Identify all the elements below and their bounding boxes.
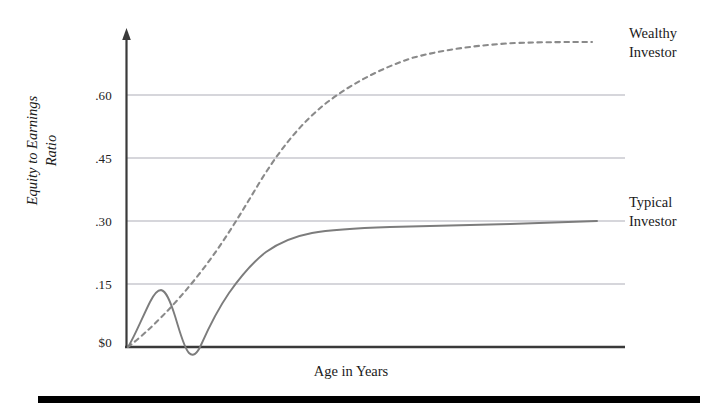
y-axis <box>122 28 131 347</box>
y-axis-title-line1: Equity to Earnings <box>23 81 42 221</box>
y-tick-label-030: .30 <box>68 214 112 230</box>
bottom-divider-rule <box>38 396 700 403</box>
y-tick-label-015: .15 <box>68 277 112 293</box>
y-axis-arrow-icon <box>122 28 131 40</box>
chart-figure: .60 .45 .30 .15 $0 Equity to Earnings Ra… <box>0 0 713 415</box>
y-tick-label-060: .60 <box>68 88 112 104</box>
series-label-wealthy-investor: Wealthy Investor <box>629 24 677 62</box>
series-label-typical-investor: Typical Investor <box>629 193 677 231</box>
y-tick-label-045: .45 <box>68 151 112 167</box>
x-axis-title: Age in Years <box>256 363 446 380</box>
y-tick-label-zero: $0 <box>68 335 112 351</box>
y-axis-title-line2: Ratio <box>42 81 61 221</box>
y-axis-title: Equity to Earnings Ratio <box>23 81 60 221</box>
gridlines <box>126 95 625 284</box>
series-line-typical-investor <box>128 221 597 355</box>
series-line-wealthy-investor <box>128 42 592 347</box>
chart-plot-area <box>0 0 713 415</box>
